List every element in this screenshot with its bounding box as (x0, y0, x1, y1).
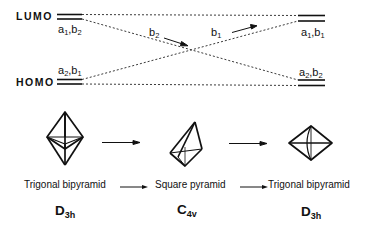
point-group-1: D3h (55, 204, 75, 218)
point-group-3: D3h (301, 205, 321, 219)
shape-name-3: Trigonal bipyramid (268, 180, 350, 190)
name-arrow-2 (240, 183, 270, 191)
right-lumo-level (298, 16, 325, 22)
b2-arrow (164, 38, 188, 46)
b1-arrow (232, 25, 257, 33)
b1-crossing-label: b1 (211, 27, 221, 38)
trigonal-bipyramid-rotated-icon (289, 126, 332, 160)
shape-name-1: Trigonal bipyramid (24, 180, 106, 190)
homo-label: HOMO (16, 77, 55, 88)
name-arrow-1 (120, 183, 150, 191)
lumo-label: LUMO (16, 11, 53, 22)
left-lumo-symmetry: a1,b2 (58, 24, 82, 35)
right-lumo-symmetry: a1,b1 (301, 27, 325, 38)
transform-arrow-2 (229, 142, 267, 146)
transform-arrow-1 (102, 141, 140, 145)
point-group-2: C4v (177, 203, 197, 217)
trigonal-bipyramid-icon (47, 112, 83, 165)
square-pyramid-icon (170, 122, 202, 166)
right-homo-level (298, 80, 325, 86)
shape-name-2: Square pyramid (155, 180, 226, 190)
left-homo-symmetry: a2,b1 (58, 65, 82, 76)
right-homo-symmetry: a2,b2 (299, 67, 323, 78)
left-lumo-level (57, 15, 82, 20)
correlation-lines (82, 15, 298, 86)
b2-crossing-label: b2 (149, 27, 159, 38)
left-homo-level (57, 80, 82, 85)
